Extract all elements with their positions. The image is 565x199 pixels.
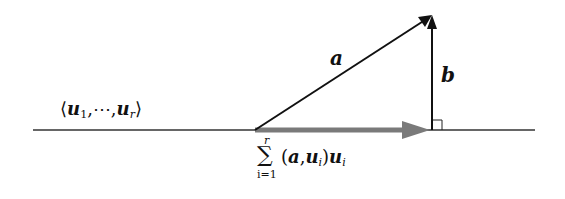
a-symbol: a: [288, 146, 300, 167]
u-symbol: u: [329, 146, 342, 167]
subspace-label: ⟨u1,⋯,ur⟩: [60, 98, 142, 121]
sigma-symbol: ∑: [257, 144, 273, 166]
paren-open: (: [281, 146, 288, 167]
right-angle-marker: [432, 120, 442, 130]
vector-projection-diagram: ⟨u1,⋯,ur⟩ a b r ∑ i=1 (a,ui)ui: [0, 0, 565, 199]
projection-arrow: [255, 121, 430, 139]
vector-a-label: a: [330, 46, 343, 70]
subscript-i: i: [342, 156, 346, 169]
u-symbol: u: [67, 98, 80, 119]
projection-body: (a,ui)ui: [281, 146, 346, 169]
vector-b-label: b: [441, 63, 455, 87]
angle-close: ⟩: [135, 98, 142, 119]
ellipsis: ,⋯,: [87, 98, 116, 119]
u-symbol: u: [305, 146, 318, 167]
vector-a-arrow: [255, 15, 432, 130]
vector-b-arrow: [427, 15, 437, 130]
u-symbol: u: [117, 98, 130, 119]
angle-open: ⟨: [60, 98, 67, 119]
sum-lower-limit: i=1: [257, 168, 277, 181]
